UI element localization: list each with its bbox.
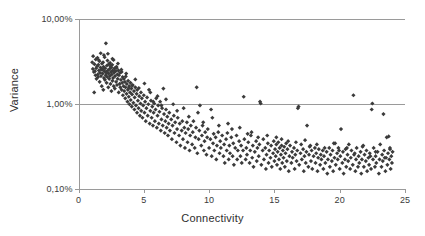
data-point [238, 154, 242, 158]
data-point [266, 161, 270, 165]
data-point [362, 165, 366, 169]
data-point [382, 148, 386, 152]
data-point [331, 169, 335, 173]
data-point [132, 107, 136, 111]
data-point [253, 150, 257, 154]
data-point [182, 106, 186, 110]
data-point [240, 161, 244, 165]
data-point [255, 159, 259, 163]
data-point [207, 146, 211, 150]
data-point [272, 139, 276, 143]
data-point [230, 127, 234, 131]
data-point [381, 112, 385, 116]
data-point [183, 131, 187, 135]
data-point [185, 140, 189, 144]
data-point [164, 97, 168, 101]
data-point [153, 119, 157, 123]
data-point [323, 161, 327, 165]
data-point [348, 167, 352, 171]
data-point [144, 106, 148, 110]
data-point [148, 122, 152, 126]
data-point [134, 103, 138, 107]
data-point [159, 128, 163, 132]
data-point [274, 135, 278, 139]
data-point [155, 114, 159, 118]
data-point [372, 146, 376, 150]
data-point [254, 139, 258, 143]
data-point [199, 143, 203, 147]
data-point [357, 154, 361, 158]
data-point [364, 148, 368, 152]
data-point [389, 167, 393, 171]
data-point [183, 146, 187, 150]
data-point [191, 130, 195, 134]
data-point [214, 135, 218, 139]
data-point [121, 93, 125, 97]
y-tick-label-2: 10,00% [25, 14, 73, 24]
data-point [226, 122, 230, 126]
data-point [302, 169, 306, 173]
data-point [104, 41, 108, 45]
data-point [163, 119, 167, 123]
data-point [219, 146, 223, 150]
data-point [109, 89, 113, 93]
data-point [349, 148, 353, 152]
data-point [136, 99, 140, 103]
data-point [217, 151, 221, 155]
data-point [277, 157, 281, 161]
data-point [328, 153, 332, 157]
data-point [293, 167, 297, 171]
data-point [353, 169, 357, 173]
x-tick-label-1: 5 [131, 195, 157, 205]
data-point [245, 153, 249, 157]
data-point [266, 141, 270, 145]
data-point [142, 111, 146, 115]
y-tick-label-0: 0,10% [25, 184, 73, 194]
data-point [251, 143, 255, 147]
data-point [287, 169, 291, 173]
data-point [317, 147, 321, 151]
data-point [177, 133, 181, 137]
data-point [310, 148, 314, 152]
data-point [197, 128, 201, 132]
data-point [244, 157, 248, 161]
data-point [100, 84, 104, 88]
data-point [326, 157, 330, 161]
data-point [217, 123, 221, 127]
data-point [186, 127, 190, 131]
data-point [271, 151, 275, 155]
data-point [210, 116, 214, 120]
data-point [390, 150, 394, 154]
data-point [255, 146, 259, 150]
data-point [285, 147, 289, 151]
data-point [250, 156, 254, 160]
data-point [390, 161, 394, 165]
data-point [151, 123, 155, 127]
data-point [195, 151, 199, 155]
data-point [321, 167, 325, 171]
data-point [187, 148, 191, 152]
data-point [318, 163, 322, 167]
data-point [227, 143, 231, 147]
data-point [281, 148, 285, 152]
data-point [172, 131, 176, 135]
data-point [236, 148, 240, 152]
data-point [292, 146, 296, 150]
data-point [157, 122, 161, 126]
data-point [188, 133, 192, 137]
data-point [338, 167, 342, 171]
data-point [210, 154, 214, 158]
data-point [220, 133, 224, 137]
data-point [339, 127, 343, 131]
data-point [223, 161, 227, 165]
data-point [171, 102, 175, 106]
data-point [180, 119, 184, 123]
data-point [202, 139, 206, 143]
data-point [294, 140, 298, 144]
data-point [106, 52, 110, 56]
data-point [216, 130, 220, 134]
data-point [345, 153, 349, 157]
data-point [298, 151, 302, 155]
data-point [274, 154, 278, 158]
data-point [327, 146, 331, 150]
